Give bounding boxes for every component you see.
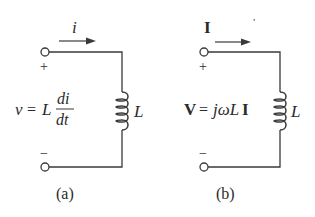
terminal-bottom-a <box>41 163 49 171</box>
inductor-coil-icon <box>116 92 128 130</box>
svg-text:jωL: jωL <box>211 100 239 119</box>
svg-text:di: di <box>57 90 69 107</box>
svg-text:v: v <box>15 100 23 119</box>
equation-a: v = L di dt <box>15 90 74 128</box>
terminal-bottom-b <box>200 163 208 171</box>
caption-b: (b) <box>216 185 235 203</box>
current-arrow-icon <box>59 38 96 45</box>
inductor-label-a: L <box>133 102 143 121</box>
current-arrow-icon <box>215 39 251 46</box>
wire-bottom-a <box>49 130 122 167</box>
minus-sign-a: − <box>40 146 48 161</box>
panel-b: I , L + − V = jωL I (b) <box>184 12 300 203</box>
plus-sign-a: + <box>40 59 48 74</box>
wire-top-b <box>208 52 280 92</box>
svg-text:=: = <box>199 101 208 118</box>
stray-mark: , <box>253 12 255 22</box>
svg-text:V: V <box>184 100 197 119</box>
equation-b: V = jωL I <box>184 100 249 119</box>
plus-sign-b: + <box>199 59 207 74</box>
wire-top-a <box>49 52 122 92</box>
current-label-b: I <box>204 18 211 37</box>
current-label-a: i <box>72 18 77 37</box>
panel-a: i L + − v = L di dt (a) <box>15 18 143 203</box>
caption-a: (a) <box>56 185 74 203</box>
terminal-top-a <box>41 48 49 56</box>
terminal-top-b <box>200 48 208 56</box>
svg-text:=: = <box>27 101 36 118</box>
wire-bottom-b <box>208 130 280 167</box>
inductor-circuits-figure: i L + − v = L di dt (a) I , <box>0 0 315 217</box>
svg-text:L: L <box>41 100 51 119</box>
inductor-coil-icon <box>274 92 286 130</box>
svg-text:dt: dt <box>56 111 69 128</box>
minus-sign-b: − <box>199 146 207 161</box>
svg-text:I: I <box>242 100 249 119</box>
inductor-label-b: L <box>290 102 300 121</box>
